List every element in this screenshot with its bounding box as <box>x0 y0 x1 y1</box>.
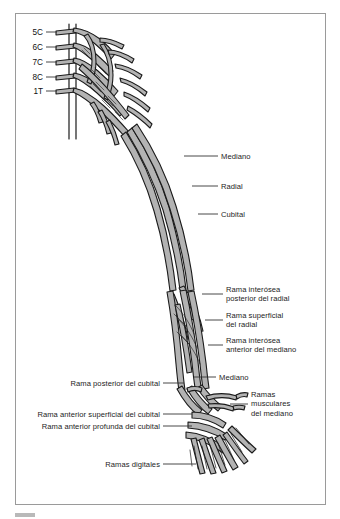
root-label-6c: 6C <box>16 43 43 52</box>
label-rama-interosea-posterior-radial: Rama interósea posterior del radial <box>226 285 289 304</box>
caption-text <box>41 512 62 519</box>
label-mediano-arm: Mediano <box>221 152 250 161</box>
forearm-nerves <box>167 290 209 391</box>
label-rama-posterior-cubital: Rama posterior del cubital <box>16 379 160 388</box>
label-rama-superficial-radial: Rama superficial del radial <box>226 311 283 330</box>
vertebral-column <box>69 24 76 139</box>
label-rama-interosea-anterior-mediano: Rama interósea anterior del mediano <box>226 336 296 355</box>
leader-lines-roots <box>46 32 57 91</box>
root-label-5c: 5C <box>16 28 43 37</box>
figure-frame: 5C 6C 7C 8C 1T Mediano Radial Cubital Ra… <box>15 13 326 505</box>
root-label-7c: 7C <box>16 58 43 67</box>
figure-page: 5C 6C 7C 8C 1T Mediano Radial Cubital Ra… <box>0 0 340 519</box>
label-radial-arm: Radial <box>221 182 243 191</box>
root-label-8c: 8C <box>16 73 43 82</box>
label-mediano-forearm: Mediano <box>219 373 248 382</box>
label-cubital-arm: Cubital <box>221 210 245 219</box>
brachial-plexus-diagram <box>16 14 327 506</box>
label-ramas-digitales: Ramas digitales <box>16 460 160 469</box>
label-ramas-musculares-mediano: Ramas musculares del mediano <box>251 390 293 418</box>
figure-caption-strip <box>15 512 195 519</box>
label-rama-anterior-superficial-cubital: Rama anterior superficial del cubital <box>16 410 160 419</box>
label-rama-anterior-profunda-cubital: Rama anterior profunda del cubital <box>16 422 160 431</box>
caption-marker <box>15 513 35 517</box>
root-label-1t: 1T <box>16 87 43 96</box>
nerve-anatomy-artwork <box>56 24 256 474</box>
